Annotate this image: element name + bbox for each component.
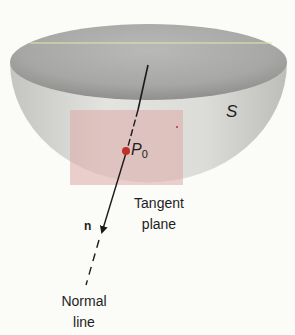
point-label: P0 bbox=[131, 142, 148, 160]
tangent-plane-label-line2: plane bbox=[126, 214, 192, 235]
point-label-letter: P bbox=[131, 141, 142, 158]
bowl-rim-interior bbox=[10, 24, 287, 100]
normal-line-label-line1: Normal bbox=[54, 291, 114, 312]
diagram-graphics bbox=[0, 0, 295, 335]
plane-speck bbox=[176, 126, 178, 128]
tangent-plane-label-line1: Tangent bbox=[126, 193, 192, 214]
normal-line-label: Normal line bbox=[54, 291, 114, 333]
tangent-plane-label: Tangent plane bbox=[126, 193, 192, 235]
normal-line-label-line2: line bbox=[54, 312, 114, 333]
normal-line-lower-dashed bbox=[86, 240, 99, 285]
point-label-subscript: 0 bbox=[142, 148, 148, 160]
normal-vector-label: n bbox=[84, 220, 91, 232]
surface-normal-diagram: S P0 Tangent plane n Normal line bbox=[0, 0, 295, 335]
surface-label: S bbox=[226, 103, 237, 120]
point-p0 bbox=[122, 147, 130, 155]
